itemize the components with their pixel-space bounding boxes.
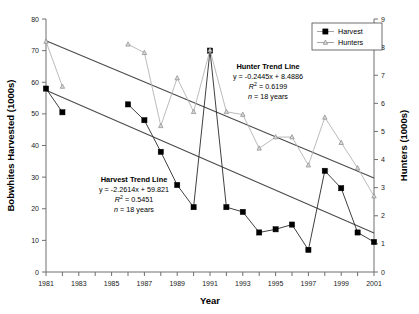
y2-axis-tick-label: 1 — [381, 240, 385, 247]
y-axis-tick-label: 70 — [31, 47, 39, 54]
y2-axis-tick-label: 0 — [381, 269, 385, 276]
data-point-hunters — [257, 146, 261, 150]
data-point-harvest — [43, 86, 48, 91]
data-point-hunters — [126, 42, 130, 46]
data-point-hunters — [175, 76, 179, 80]
hunter-trend-annotation-r2: R2 = 0.6199 — [249, 81, 287, 91]
data-point-harvest — [60, 110, 65, 115]
x-axis-tick-label: 1987 — [137, 280, 153, 287]
harvest-trend-annotation-title: Harvest Trend Line — [101, 175, 168, 184]
x-axis-tick-label: 2001 — [366, 280, 382, 287]
hunter-trend-annotation-title: Hunter Trend Line — [236, 62, 299, 71]
data-point-harvest — [257, 230, 262, 235]
x-axis-tick-label: 1997 — [301, 280, 317, 287]
y2-axis-tick-label: 5 — [381, 128, 385, 135]
y-axis-tick-label: 60 — [31, 79, 39, 86]
x-axis-tick-label: 1989 — [169, 280, 185, 287]
legend-label-hunters: Hunters — [338, 38, 364, 47]
harvest-trend-annotation-r2: R2 = 0.5451 — [115, 194, 153, 204]
data-point-harvest — [240, 209, 245, 214]
data-point-harvest — [191, 205, 196, 210]
y-axis-tick-label: 50 — [31, 110, 39, 117]
y-axis-tick-label: 30 — [31, 174, 39, 181]
data-point-harvest — [306, 247, 311, 252]
data-point-harvest — [175, 182, 180, 187]
x-axis-title: Year — [200, 295, 220, 306]
data-point-harvest — [158, 149, 163, 154]
x-axis-tick-label: 1999 — [333, 280, 349, 287]
data-point-harvest — [142, 118, 147, 123]
data-point-harvest — [371, 239, 376, 244]
y2-axis-tick-label: 2 — [381, 212, 385, 219]
x-axis-tick-label: 1983 — [71, 280, 87, 287]
data-point-hunters — [224, 109, 228, 113]
harvest-trend-annotation-n: n = 18 years — [114, 205, 154, 214]
harvest-trend-annotation-equation: y = -2.2614x + 59.821 — [99, 185, 169, 194]
x-axis-tick-label: 1985 — [104, 280, 120, 287]
hunter-trend-annotation-n: n = 18 years — [248, 92, 288, 101]
y2-axis-tick-label: 4 — [381, 156, 385, 163]
y-axis-tick-label: 20 — [31, 205, 39, 212]
y2-axis-tick-label: 3 — [381, 184, 385, 191]
hunter-trend-annotation-equation: y = -0.2445x + 8.4886 — [233, 72, 303, 81]
y-axis-title: Bobwhites Harvested (1000s) — [5, 80, 16, 212]
x-axis-tick-label: 1995 — [268, 280, 284, 287]
x-axis-tick-label: 1993 — [235, 280, 251, 287]
data-point-harvest — [125, 102, 130, 107]
y2-axis-tick-label: 7 — [381, 72, 385, 79]
data-point-harvest — [224, 205, 229, 210]
data-point-hunters — [323, 115, 327, 119]
data-point-harvest — [355, 230, 360, 235]
data-point-hunters — [191, 109, 195, 113]
legend-label-harvest: Harvest — [338, 27, 363, 36]
data-point-harvest — [273, 227, 278, 232]
y2-axis-tick-label: 6 — [381, 100, 385, 107]
y-axis-tick-label: 80 — [31, 16, 39, 23]
series-line-harvest — [46, 89, 62, 113]
data-point-harvest — [289, 222, 294, 227]
x-axis-tick-label: 1981 — [38, 280, 54, 287]
hunter-trend-line — [46, 41, 374, 178]
data-point-hunters — [159, 123, 163, 127]
bobwhite-harvest-hunters-chart: 0102030405060708001234567891981198319851… — [0, 0, 419, 314]
chart-container: 0102030405060708001234567891981198319851… — [0, 0, 419, 314]
data-point-hunters — [60, 84, 64, 88]
harvest-trend-line — [46, 90, 374, 233]
y-axis-tick-label: 0 — [35, 269, 39, 276]
legend-marker-harvest — [323, 29, 328, 34]
series-line-hunters — [46, 41, 62, 86]
data-point-harvest — [322, 168, 327, 173]
y2-axis-title: Hunters (1000s) — [398, 110, 409, 181]
y-axis-tick-label: 40 — [31, 142, 39, 149]
x-axis-tick-label: 1991 — [202, 280, 218, 287]
y-axis-tick-label: 10 — [31, 237, 39, 244]
data-point-harvest — [339, 186, 344, 191]
y2-axis-tick-label: 9 — [381, 16, 385, 23]
